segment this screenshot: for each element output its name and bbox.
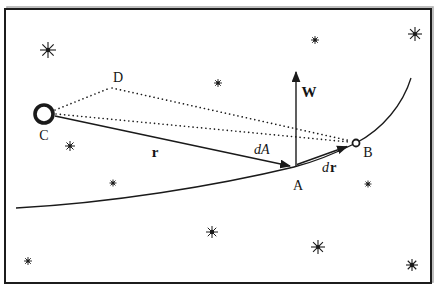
star-icon — [406, 259, 418, 271]
star-icon — [40, 42, 56, 58]
label-r-vector: r — [152, 144, 159, 160]
label-point-c: C — [39, 128, 48, 143]
label-area-element-dA: dA — [254, 142, 270, 157]
label-dr-r: r — [330, 159, 337, 175]
label-point-a: A — [293, 178, 304, 193]
point-b-marker — [353, 140, 360, 147]
star-icon — [214, 79, 222, 87]
label-point-d: D — [113, 70, 123, 85]
star-icon — [311, 240, 325, 254]
star-icon — [311, 36, 319, 44]
label-dr-vector: dr — [322, 159, 337, 175]
star-icon — [206, 226, 218, 238]
label-w-vector: W — [302, 84, 317, 100]
figure-canvas: C D A B r W dA dr — [0, 0, 441, 294]
label-point-b: B — [363, 145, 372, 160]
star-icon — [65, 141, 75, 151]
point-c-marker — [35, 105, 53, 123]
star-icon — [110, 180, 117, 187]
star-icon — [365, 181, 372, 188]
star-icon — [24, 257, 32, 265]
star-icon — [408, 27, 422, 41]
label-dr-d: d — [322, 160, 330, 175]
orbit-diagram: C D A B r W dA dr — [0, 0, 441, 294]
